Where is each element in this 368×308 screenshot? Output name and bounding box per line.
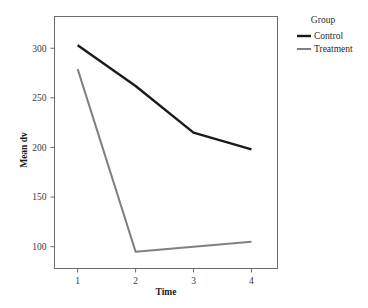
x-tick-label: 2 [133,276,138,286]
x-tick-label: 1 [75,276,80,286]
y-axis-title: Mean dv [19,132,29,168]
y-tick-label: 250 [32,93,47,103]
y-tick-label: 150 [32,192,47,202]
y-tick-label: 300 [32,44,47,54]
x-axis-title: Time [156,287,177,297]
x-tick-label: 4 [249,276,254,286]
figure-background [0,0,368,308]
line-chart-figure: 100150200250300 1234 Mean dv Time Group … [0,0,368,308]
y-tick-label: 200 [32,143,47,153]
legend-label-control: Control [314,31,343,41]
x-tick-label: 3 [191,276,196,286]
legend-title: Group [311,15,336,25]
y-tick-label: 100 [32,242,47,252]
legend-label-treatment: Treatment [314,44,353,54]
